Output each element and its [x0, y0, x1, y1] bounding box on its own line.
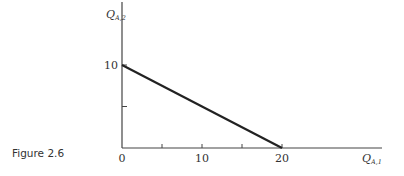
- x-axis-label: QA,1: [362, 152, 382, 166]
- x-tick-label: 10: [195, 152, 209, 165]
- series-lines: [122, 65, 282, 148]
- figure: 01020 10 QA,2 QA,1 Figure 2.6: [0, 0, 404, 176]
- budget-line: [122, 65, 282, 148]
- x-tick-label: 20: [275, 152, 289, 165]
- figure-caption: Figure 2.6: [12, 147, 64, 159]
- y-axis-label: QA,2: [106, 8, 126, 22]
- y-ticks: [122, 65, 127, 107]
- x-tick-label: 0: [119, 152, 126, 165]
- x-tick-labels: 01020: [119, 152, 290, 165]
- y-tick-labels: 10: [104, 59, 118, 72]
- y-tick-label: 10: [104, 59, 118, 72]
